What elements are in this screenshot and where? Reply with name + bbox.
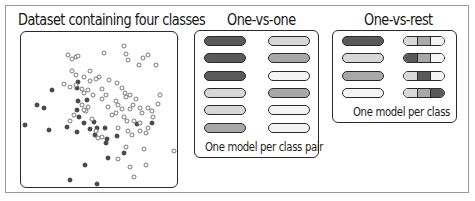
one-vs-one-model-left-class <box>204 53 246 63</box>
data-point-hollow <box>122 44 126 48</box>
data-point-hollow <box>120 86 124 90</box>
data-point-hollow <box>82 75 86 79</box>
data-point-hollow <box>116 157 120 161</box>
data-point-hollow <box>141 56 145 60</box>
data-point-filled <box>42 106 46 110</box>
data-point-hollow <box>74 83 78 87</box>
data-point-filled <box>104 141 108 145</box>
rest-class-segment <box>430 37 444 45</box>
rest-class-segment <box>404 37 417 45</box>
rest-class-segment <box>417 37 431 45</box>
data-point-filled <box>77 115 81 119</box>
data-point-hollow <box>126 58 130 62</box>
data-point-hollow <box>102 51 106 55</box>
rest-class-segment <box>430 89 444 97</box>
rest-class-segment <box>430 54 444 62</box>
one-vs-rest-rest-classes <box>403 88 445 98</box>
data-point-filled <box>85 98 89 102</box>
data-point-hollow <box>140 111 144 115</box>
data-point-hollow <box>158 93 162 97</box>
data-point-filled <box>115 134 119 138</box>
one-vs-rest-rest-classes <box>403 71 445 81</box>
one-vs-one-model-right-class <box>268 105 310 115</box>
data-point-filled <box>83 163 87 167</box>
one-vs-one-caption: One model per class pair <box>205 140 323 154</box>
data-point-hollow <box>128 93 132 97</box>
data-point-filled <box>50 88 54 92</box>
data-point-filled <box>47 128 51 132</box>
scatter-plot-panel <box>20 31 178 188</box>
data-point-hollow <box>70 69 74 73</box>
data-point-hollow <box>131 103 135 107</box>
data-point-hollow <box>100 97 104 101</box>
data-point-hollow <box>106 105 110 109</box>
data-point-filled <box>95 182 99 186</box>
one-vs-one-title: One-vs-one <box>227 11 296 29</box>
data-point-hollow <box>115 81 119 85</box>
one-vs-one-model-left-class <box>204 105 246 115</box>
one-vs-rest-single-class <box>342 88 384 98</box>
data-point-hollow <box>156 102 160 106</box>
data-point-filled <box>106 156 110 160</box>
data-point-hollow <box>86 88 90 92</box>
data-point-filled <box>75 108 79 112</box>
data-point-hollow <box>151 115 155 119</box>
rest-class-segment <box>430 72 444 80</box>
data-point-hollow <box>134 97 138 101</box>
data-point-hollow <box>100 135 104 139</box>
data-point-hollow <box>172 149 176 153</box>
data-point-hollow <box>80 103 84 107</box>
data-point-hollow <box>142 147 146 151</box>
one-vs-rest-panel: One model per class <box>332 30 457 123</box>
data-point-hollow <box>128 107 132 111</box>
one-vs-rest-caption: One model per class <box>353 105 450 119</box>
data-point-filled <box>23 123 27 127</box>
one-vs-one-model-right-class <box>268 123 310 133</box>
data-point-hollow <box>96 136 100 140</box>
data-point-hollow <box>62 82 66 86</box>
data-point-filled <box>103 126 107 130</box>
data-point-hollow <box>72 113 76 117</box>
one-vs-rest-single-class <box>342 53 384 63</box>
data-point-hollow <box>150 109 154 113</box>
rest-class-segment <box>404 89 417 97</box>
data-point-hollow <box>107 78 111 82</box>
one-vs-rest-single-class <box>342 36 384 46</box>
data-point-hollow <box>68 85 72 89</box>
one-vs-rest-rest-classes <box>403 53 445 63</box>
data-point-hollow <box>138 129 142 133</box>
data-point-filled <box>82 121 86 125</box>
one-vs-one-model-right-class <box>268 88 310 98</box>
data-point-hollow <box>138 121 142 125</box>
scatter-plot <box>21 32 179 189</box>
data-point-hollow <box>82 108 86 112</box>
data-point-hollow <box>146 106 150 110</box>
data-point-hollow <box>120 107 124 111</box>
data-point-hollow <box>100 87 104 91</box>
data-point-hollow <box>114 99 118 103</box>
rest-class-segment <box>417 54 431 62</box>
data-point-hollow <box>154 63 158 67</box>
data-point-filled <box>150 121 154 125</box>
data-point-hollow <box>146 53 150 57</box>
data-point-hollow <box>94 129 98 133</box>
data-point-hollow <box>80 87 84 91</box>
one-vs-one-model-left-class <box>204 123 246 133</box>
data-point-hollow <box>82 91 86 95</box>
data-point-filled <box>75 130 79 134</box>
data-point-hollow <box>128 165 132 169</box>
data-point-hollow <box>94 77 98 81</box>
data-point-hollow <box>68 119 72 123</box>
data-point-filled <box>76 99 80 103</box>
rest-class-segment <box>404 54 417 62</box>
one-vs-one-model-right-class <box>268 71 310 81</box>
data-point-filled <box>88 127 92 131</box>
one-vs-rest-single-class <box>342 71 384 81</box>
one-vs-one-model-left-class <box>204 71 246 81</box>
one-vs-one-panel: One model per class pair <box>194 30 319 158</box>
data-point-hollow <box>138 106 142 110</box>
data-point-hollow <box>123 91 127 95</box>
data-point-hollow <box>88 79 92 83</box>
data-point-hollow <box>88 69 92 73</box>
data-point-hollow <box>76 54 80 58</box>
